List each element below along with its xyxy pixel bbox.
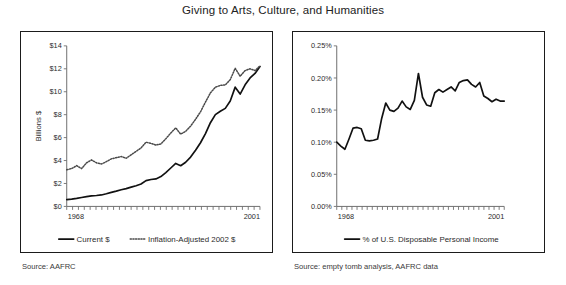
svg-text:1968: 1968 xyxy=(338,212,354,221)
svg-text:$0: $0 xyxy=(54,202,62,211)
svg-text:1968: 1968 xyxy=(68,212,84,221)
svg-text:$10: $10 xyxy=(50,87,62,96)
svg-text:2001: 2001 xyxy=(244,212,260,221)
svg-text:0.10%: 0.10% xyxy=(311,138,332,147)
svg-text:0.25%: 0.25% xyxy=(311,41,332,50)
dollars-line-chart: $0$2$4$6$8$10$12$1419682001Billions $Cur… xyxy=(21,32,272,252)
svg-text:0.15%: 0.15% xyxy=(311,106,332,115)
svg-text:$6: $6 xyxy=(54,133,62,142)
svg-text:0.20%: 0.20% xyxy=(311,74,332,83)
svg-text:$8: $8 xyxy=(54,110,62,119)
svg-text:Inflation-Adjusted 2002 $: Inflation-Adjusted 2002 $ xyxy=(148,235,236,244)
svg-text:2001: 2001 xyxy=(488,212,504,221)
svg-text:0.00%: 0.00% xyxy=(311,202,332,211)
right-source-note: Source: empty tomb analysis, AAFRC data xyxy=(294,262,438,271)
svg-text:Billions $: Billions $ xyxy=(34,110,43,142)
percent-dpi-line-chart: 0.00%0.05%0.10%0.15%0.20%0.25%19682001% … xyxy=(293,32,544,252)
page-title: Giving to Arts, Culture, and Humanities xyxy=(0,4,566,16)
svg-text:Current $: Current $ xyxy=(77,235,111,244)
svg-text:0.05%: 0.05% xyxy=(311,170,332,179)
svg-text:$2: $2 xyxy=(54,179,62,188)
svg-text:$14: $14 xyxy=(50,41,62,50)
left-source-note: Source: AAFRC xyxy=(22,262,76,271)
right-chart-panel: 0.00%0.05%0.10%0.15%0.20%0.25%19682001% … xyxy=(292,31,545,253)
svg-text:% of U.S. Disposable Personal: % of U.S. Disposable Personal Income xyxy=(363,235,500,244)
svg-text:$12: $12 xyxy=(50,64,62,73)
svg-text:$4: $4 xyxy=(54,156,62,165)
left-chart-panel: $0$2$4$6$8$10$12$1419682001Billions $Cur… xyxy=(20,31,273,253)
